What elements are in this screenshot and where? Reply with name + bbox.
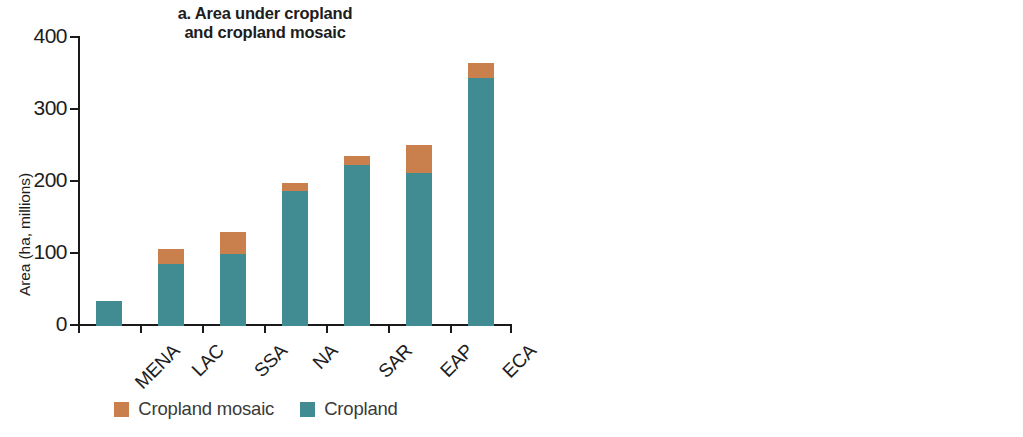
y-tick-mark	[70, 36, 78, 38]
y-tick-label: 200	[33, 168, 67, 192]
panel-b-cropland-per-capita: b. Cropland area per capita Area per cap…	[512, 0, 1023, 437]
bar-mena	[96, 301, 122, 326]
legend-cropland: Cropland	[300, 398, 397, 420]
figure-cropland-area: a. Area under cropland and cropland mosa…	[0, 0, 1023, 437]
bar-segment-cropland	[468, 78, 494, 326]
bar-ssa	[220, 232, 246, 326]
bar-segment-cropland-mosaic	[468, 63, 494, 78]
x-axis-label-ssa: SSA	[250, 340, 292, 382]
y-tick-mark	[70, 324, 78, 326]
y-tick-mark	[70, 180, 78, 182]
x-axis-label-sar: SAR	[374, 340, 417, 383]
bar-lac	[158, 249, 184, 326]
bar-eca	[468, 62, 494, 326]
bar-na	[282, 183, 308, 326]
bar-eap	[406, 145, 432, 326]
bar-segment-cropland	[282, 191, 308, 326]
panel-a-y-axis-label: Area (ha, millions)	[16, 173, 34, 296]
y-tick-mark	[70, 108, 78, 110]
x-axis-label-eap: EAP	[436, 340, 478, 382]
x-axis-label-na: NA	[309, 340, 343, 374]
legend-label: Cropland	[324, 398, 397, 420]
x-tick-mark	[264, 324, 266, 333]
legend-label: Cropland mosaic	[138, 398, 274, 420]
bar-sar	[344, 156, 370, 326]
legend-swatch-icon	[114, 402, 129, 417]
x-tick-mark	[140, 324, 142, 333]
x-axis-label-mena: MENA	[131, 340, 185, 394]
bar-segment-cropland-mosaic	[220, 232, 246, 254]
panel-a-plot-area: 0100200300400MENALACSSANASAREAPECA	[78, 36, 512, 326]
bar-segment-cropland	[158, 264, 184, 326]
legend-cropland-mosaic: Cropland mosaic	[114, 398, 274, 420]
bar-segment-cropland-mosaic	[344, 156, 370, 165]
bar-segment-cropland-mosaic	[282, 183, 308, 191]
x-tick-mark	[326, 324, 328, 333]
panel-a-area-under-cropland: a. Area under cropland and cropland mosa…	[0, 0, 512, 437]
y-tick-label: 400	[33, 24, 67, 48]
x-axis-label-lac: LAC	[188, 340, 229, 381]
bar-segment-cropland	[406, 173, 432, 326]
bar-segment-cropland	[344, 165, 370, 326]
y-tick-mark	[70, 252, 78, 254]
bar-segment-cropland	[96, 301, 122, 326]
bar-segment-cropland	[220, 254, 246, 326]
panel-a-y-axis-line	[78, 36, 80, 326]
x-tick-mark	[78, 324, 80, 333]
bar-segment-cropland-mosaic	[158, 249, 184, 264]
legend-swatch-icon	[300, 402, 315, 417]
y-tick-label: 100	[33, 240, 67, 264]
x-tick-mark	[450, 324, 452, 333]
bar-segment-cropland-mosaic	[406, 145, 432, 174]
y-tick-label: 0	[56, 312, 67, 336]
legend: Cropland mosaicCropland	[0, 398, 512, 420]
x-tick-mark	[202, 324, 204, 333]
y-tick-label: 300	[33, 96, 67, 120]
x-tick-mark	[388, 324, 390, 333]
